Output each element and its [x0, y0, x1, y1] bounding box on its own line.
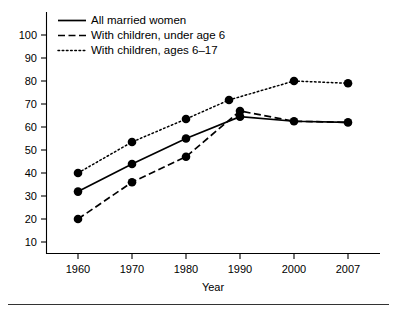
x-tick-label-2007: 2007 — [336, 263, 360, 275]
data-point — [182, 152, 191, 161]
chart-figure: 100 90 80 70 60 50 40 30 20 10 1960 1970… — [0, 0, 397, 314]
data-point — [225, 96, 234, 105]
series-markers-all-married-women — [74, 112, 353, 196]
y-tick-label-30: 30 — [25, 190, 37, 202]
y-axis-ticks — [41, 35, 47, 242]
series-line-all-married-women — [78, 117, 348, 192]
y-tick-label-60: 60 — [25, 121, 37, 133]
y-tick-label-90: 90 — [25, 52, 37, 64]
data-point — [74, 169, 83, 178]
y-tick-label-20: 20 — [25, 213, 37, 225]
chart-legend: All married women With children, under a… — [58, 14, 225, 56]
data-point — [128, 138, 137, 147]
data-point — [290, 117, 299, 126]
x-tick-label-1990: 1990 — [228, 263, 252, 275]
legend-label-all-married-women: All married women — [91, 14, 186, 26]
data-point — [236, 112, 245, 121]
legend-label-with-children-ages-6-17: With children, ages 6–17 — [91, 44, 218, 56]
x-tick-label-2000: 2000 — [282, 263, 306, 275]
y-axis-tick-labels: 100 90 80 70 60 50 40 30 20 10 — [19, 29, 37, 248]
bottom-divider-rule — [8, 304, 389, 305]
y-tick-label-40: 40 — [25, 167, 37, 179]
y-tick-label-100: 100 — [19, 29, 37, 41]
data-point — [74, 215, 83, 224]
x-tick-label-1980: 1980 — [174, 263, 198, 275]
data-point — [344, 118, 353, 127]
legend-label-with-children-under-age-6: With children, under age 6 — [91, 29, 225, 41]
x-axis-tick-labels: 1960 1970 1980 1990 2000 2007 — [66, 263, 360, 275]
series-markers-with-children-under-age-6 — [74, 107, 245, 224]
x-tick-label-1960: 1960 — [66, 263, 90, 275]
data-point — [128, 178, 137, 187]
data-point — [74, 187, 83, 196]
y-tick-label-80: 80 — [25, 75, 37, 87]
line-chart: 100 90 80 70 60 50 40 30 20 10 1960 1970… — [0, 0, 397, 314]
y-tick-label-70: 70 — [25, 98, 37, 110]
x-tick-label-1970: 1970 — [120, 263, 144, 275]
data-point — [344, 79, 353, 88]
x-axis-ticks — [78, 254, 348, 260]
data-point — [182, 134, 191, 143]
data-point — [182, 115, 191, 124]
data-point — [128, 160, 137, 169]
y-tick-label-50: 50 — [25, 144, 37, 156]
y-tick-label-10: 10 — [25, 236, 37, 248]
x-axis-title: Year — [202, 281, 225, 293]
data-point — [290, 77, 299, 86]
